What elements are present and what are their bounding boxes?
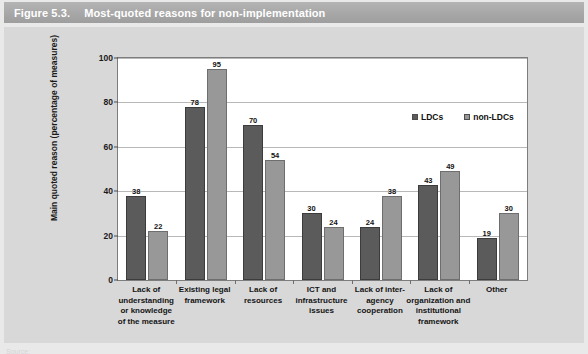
x-axis-category-label: Existing legalframework: [171, 285, 237, 306]
x-axis-category-labels: Lack ofunderstandingor knowledgeof the m…: [117, 285, 528, 343]
x-axis-category-label: Lack ofresources: [230, 285, 296, 306]
bar-value-label: 22: [154, 222, 162, 231]
x-axis-tick-mark: [235, 280, 236, 284]
legend-item-ldcs: LDCs: [412, 112, 443, 122]
legend-swatch-non-ldcs: [464, 114, 470, 120]
legend-label-non-ldcs: non-LDCs: [473, 112, 514, 122]
y-axis-tick-label: 40: [104, 186, 113, 196]
bar-value-label: 78: [190, 98, 198, 107]
gridline: [118, 191, 527, 192]
bar-value-label: 38: [132, 187, 140, 196]
bar-ldcs: 70: [243, 125, 263, 280]
chart-legend: LDCs non-LDCs: [408, 110, 518, 124]
x-axis-tick-mark: [176, 280, 177, 284]
bar-ldcs: 19: [477, 238, 497, 280]
y-axis-tick-mark: [114, 235, 118, 236]
bar-value-label: 30: [505, 204, 513, 213]
bar-non-ldcs: 30: [499, 213, 519, 280]
bar-non-ldcs: 54: [265, 160, 285, 280]
x-axis-tick-mark: [293, 280, 294, 284]
x-axis-tick-mark: [469, 280, 470, 284]
bar-value-label: 24: [329, 218, 337, 227]
bar-ldcs: 24: [360, 227, 380, 280]
y-axis-tick-mark: [114, 58, 118, 59]
bar-ldcs: 38: [126, 196, 146, 280]
y-axis-tick-label: 100: [99, 53, 113, 63]
bar-non-ldcs: 24: [324, 227, 344, 280]
gridline: [118, 102, 527, 103]
legend-item-non-ldcs: non-LDCs: [464, 112, 514, 122]
x-axis-category-label: Lack ofunderstandingor knowledgeof the m…: [113, 285, 179, 327]
bar-value-label: 24: [366, 218, 374, 227]
x-axis-category-label: Lack oforganization andinstitutionalfram…: [405, 285, 471, 327]
bar-value-label: 30: [307, 204, 315, 213]
bar-value-label: 19: [483, 229, 491, 238]
x-axis-category-label: Lack of inter-agencycooperation: [347, 285, 413, 317]
figure-container: Figure 5.3. Most-quoted reasons for non-…: [0, 0, 588, 354]
bar-value-label: 70: [249, 116, 257, 125]
x-axis-tick-mark: [352, 280, 353, 284]
figure-title-bar: Figure 5.3. Most-quoted reasons for non-…: [4, 2, 584, 23]
bar-value-label: 43: [424, 176, 432, 185]
y-axis-tick-label: 80: [104, 97, 113, 107]
source-note: Source:: [6, 348, 30, 354]
page-title: Most-quoted reasons for non-implementati…: [84, 7, 325, 19]
bar-non-ldcs: 49: [440, 171, 460, 280]
gridline: [118, 147, 527, 148]
x-axis-category-label: Other: [464, 285, 530, 296]
y-axis-tick-label: 0: [108, 275, 113, 285]
bar-ldcs: 78: [185, 107, 205, 280]
bar-value-label: 54: [271, 151, 279, 160]
bar-ldcs: 43: [418, 185, 438, 280]
bar-ldcs: 30: [302, 213, 322, 280]
bar-value-label: 95: [212, 60, 220, 69]
y-axis-tick-mark: [114, 102, 118, 103]
bar-non-ldcs: 95: [207, 69, 227, 280]
legend-swatch-ldcs: [412, 114, 418, 120]
plot-area: LDCs non-LDCs 02040608010038227895705430…: [117, 57, 528, 281]
bar-non-ldcs: 38: [382, 196, 402, 280]
y-axis-tick-label: 60: [104, 142, 113, 152]
legend-label-ldcs: LDCs: [421, 112, 443, 122]
bar-value-label: 38: [388, 187, 396, 196]
y-axis-tick-label: 20: [104, 231, 113, 241]
gridline: [118, 236, 527, 237]
y-axis-title: Main quoted reason (percentage of measur…: [49, 22, 59, 234]
y-axis-tick-mark: [114, 146, 118, 147]
y-axis-tick-mark: [114, 280, 118, 281]
bar-non-ldcs: 22: [148, 231, 168, 280]
x-axis-tick-mark: [410, 280, 411, 284]
y-axis-tick-mark: [114, 191, 118, 192]
chart-panel: Main quoted reason (percentage of measur…: [4, 27, 584, 343]
figure-number: Figure 5.3.: [14, 7, 70, 19]
x-axis-category-label: ICT andinfrastructureissues: [288, 285, 354, 317]
bar-value-label: 49: [446, 162, 454, 171]
gridline: [118, 58, 527, 59]
